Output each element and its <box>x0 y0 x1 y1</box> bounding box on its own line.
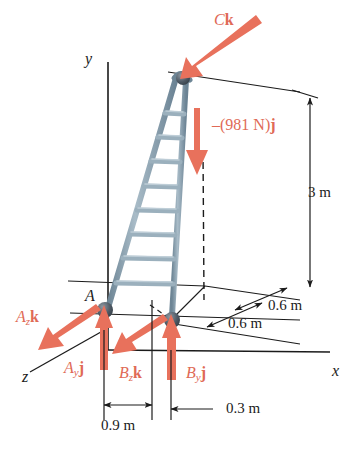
force-label-Bz: Bzk <box>119 364 142 383</box>
dim-label-06m-upper: 0.6 m <box>268 297 303 313</box>
projection-dashed-line <box>203 150 204 300</box>
x-axis-label: x <box>331 362 339 379</box>
force-arrow-weight <box>186 108 208 175</box>
force-label-Ay-vector: j <box>78 359 84 377</box>
force-arrow-Az <box>38 304 101 350</box>
force-label-Ck-vector: k <box>225 11 234 28</box>
ladder-rung <box>123 258 174 259</box>
ladder-rung <box>144 186 178 187</box>
ladder-rung-highlight <box>152 159 179 160</box>
force-label-Az: Azk <box>15 308 39 327</box>
point-label-A: A <box>84 287 95 304</box>
ladder-rung <box>137 210 177 211</box>
force-label-By-main: B <box>186 364 196 381</box>
ladder-rung-highlight <box>145 184 177 185</box>
ladder-rung-highlight <box>138 208 176 209</box>
force-label-weight: –(981 N)j <box>211 116 276 134</box>
ladder-rung-highlight <box>159 135 181 136</box>
stepladder <box>108 73 190 316</box>
force-label-Bz-vector: k <box>133 364 142 381</box>
force-label-Ay-main: A <box>63 359 74 376</box>
stepladder-free-body-diagram: y x z A Ck –(981 N)j Azk Ayj Bzk Byj 3 m <box>0 0 356 456</box>
dim-label-09m: 0.9 m <box>101 417 136 433</box>
force-label-Ay: Ayj <box>63 359 84 378</box>
force-label-Az-vector: k <box>30 308 39 325</box>
force-label-Bz-main: B <box>119 364 129 381</box>
ladder-rung <box>165 113 184 114</box>
force-label-Ck: Ck <box>214 11 234 28</box>
force-label-weight-vector: j <box>269 116 275 134</box>
dim-label-03m: 0.3 m <box>226 400 261 416</box>
ladder-rung <box>158 137 182 138</box>
force-arrow-Bz <box>112 314 168 354</box>
ladder-rungs <box>116 113 184 284</box>
y-axis-label: y <box>83 50 93 68</box>
ladder-rung-highlight <box>131 232 174 233</box>
x-axis-line <box>108 350 330 352</box>
force-label-By: Byj <box>186 364 206 383</box>
ladder-rung-highlight <box>117 281 172 282</box>
z-axis-label: z <box>21 368 29 385</box>
force-label-weight-main: –(981 N) <box>211 116 270 134</box>
ladder-rung <box>151 161 180 162</box>
ladder-rung <box>130 234 175 235</box>
ref-line-right-upper <box>292 90 318 98</box>
ladder-rung <box>116 283 173 284</box>
ladder-rung-highlight <box>124 256 173 257</box>
dim-label-06m-lower: 0.6 m <box>228 315 263 331</box>
force-label-Az-main: A <box>15 308 26 325</box>
dim-label-3m: 3 m <box>308 184 331 200</box>
force-label-By-vector: j <box>200 364 206 382</box>
ladder-rung-highlight <box>166 111 183 112</box>
force-label-Ck-main: C <box>214 11 225 28</box>
figure-root: y x z A Ck –(981 N)j Azk Ayj Bzk Byj 3 m <box>0 0 356 456</box>
